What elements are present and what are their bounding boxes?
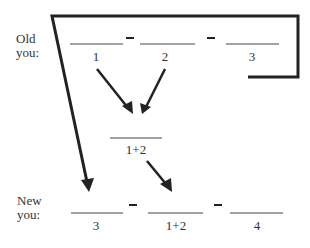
arrow-1-to-middle [97,69,133,114]
arrow-2-to-middle [140,69,165,114]
old-you-label-line1: Old [16,32,36,46]
diagram-canvas [0,0,310,248]
old-slot-3-value: 3 [249,50,256,64]
bracket-arrow [52,16,298,192]
new-slot-2-value: 1+2 [166,219,186,233]
new-you-label-line2: you: [17,208,40,222]
old-slot-2-value: 2 [162,50,169,64]
new-slot-1-value: 3 [93,219,100,233]
new-slot-3-value: 4 [254,219,261,233]
arrow-middle-to-new [147,161,172,192]
old-slot-1-value: 1 [93,50,100,64]
middle-slot-value: 1+2 [126,143,146,157]
old-you-label-line2: you: [16,46,39,60]
new-you-label-line1: New [17,194,42,208]
